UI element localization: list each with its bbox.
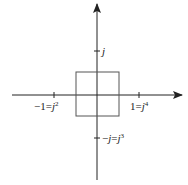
complex-plane-diagram: j −1=j2 1=j4 −j=j3: [0, 0, 188, 185]
label-neg-one: −1=j2: [34, 100, 59, 112]
diagram-canvas: j −1=j2 1=j4 −j=j3: [0, 0, 188, 185]
label-pos-one: 1=j4: [130, 100, 149, 112]
label-neg-j: −j=j3: [102, 132, 125, 144]
label-j: j: [100, 45, 105, 57]
